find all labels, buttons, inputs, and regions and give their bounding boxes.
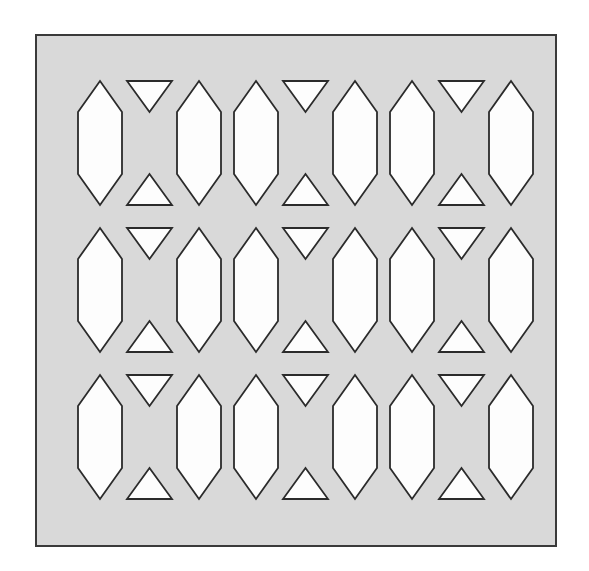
tessellation-pattern-svg [0,0,589,571]
figure-root [0,0,589,571]
